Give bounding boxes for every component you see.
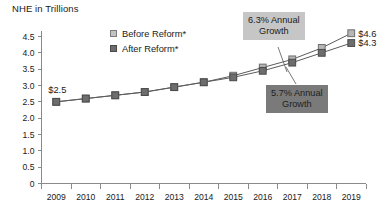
data-point-marker: [141, 89, 148, 96]
data-point-marker: [112, 92, 119, 99]
x-tick-label: 2017: [283, 192, 302, 202]
y-tick-label: 2.5: [23, 97, 35, 107]
x-tick-label: 2016: [253, 192, 272, 202]
callout-growth-high-line1: 6.3% Annual: [248, 15, 300, 26]
data-point-marker: [200, 79, 207, 86]
nhe-projection-chart: NHE in Trillions 00.51.01.52.02.53.03.54…: [0, 0, 377, 213]
data-point-marker: [53, 98, 60, 105]
x-tick-label: 2012: [135, 192, 154, 202]
callout-growth-low-line2: Growth: [271, 99, 323, 110]
x-tick-label: 2015: [224, 192, 243, 202]
chart-legend: Before Reform* After Reform*: [110, 27, 186, 57]
x-tick-label: 2018: [312, 192, 331, 202]
data-point-marker: [230, 74, 237, 81]
y-axis-ticks: 00.51.01.52.02.53.03.54.04.5: [23, 32, 42, 189]
x-tick-label: 2010: [76, 192, 95, 202]
x-tick-label: 2011: [106, 192, 125, 202]
y-tick-label: 1.0: [23, 146, 35, 156]
y-tick-label: 1.5: [23, 130, 35, 140]
y-tick-label: 4.0: [23, 48, 35, 58]
y-tick-label: 3.0: [23, 81, 35, 91]
callout-growth-low: 5.7% Annual Growth: [266, 85, 328, 113]
point-value-label: $4.6: [358, 29, 376, 39]
point-value-label: $2.5: [48, 85, 66, 95]
legend-item-after-reform: After Reform*: [110, 42, 186, 55]
callout-growth-high-line2: Growth: [248, 26, 300, 37]
x-axis-ticks: 2009201020112012201320142015201620172018…: [42, 184, 367, 202]
data-point-marker: [82, 95, 89, 102]
data-point-marker: [348, 30, 355, 37]
data-point-marker: [259, 67, 266, 74]
y-tick-label: 0: [30, 179, 35, 189]
y-tick-label: 0.5: [23, 162, 35, 172]
x-tick-label: 2013: [165, 192, 184, 202]
y-tick-label: 2.0: [23, 113, 35, 123]
callout-growth-high: 6.3% Annual Growth: [243, 12, 305, 40]
data-point-marker: [348, 40, 355, 47]
y-tick-label: 4.5: [23, 32, 35, 42]
point-value-label: $4.3: [358, 38, 376, 48]
x-tick-label: 2014: [194, 192, 213, 202]
x-tick-label: 2019: [342, 192, 361, 202]
x-tick-label: 2009: [47, 192, 66, 202]
legend-label-before-reform: Before Reform*: [122, 29, 186, 39]
data-point-marker: [318, 49, 325, 56]
legend-item-before-reform: Before Reform*: [110, 27, 186, 40]
legend-swatch-before-reform: [110, 30, 117, 37]
data-point-marker: [171, 84, 178, 91]
data-point-marker: [289, 59, 296, 66]
callout-growth-low-line1: 5.7% Annual: [271, 88, 323, 99]
legend-swatch-after-reform: [110, 45, 117, 52]
legend-label-after-reform: After Reform*: [122, 44, 178, 54]
y-tick-label: 3.5: [23, 64, 35, 74]
